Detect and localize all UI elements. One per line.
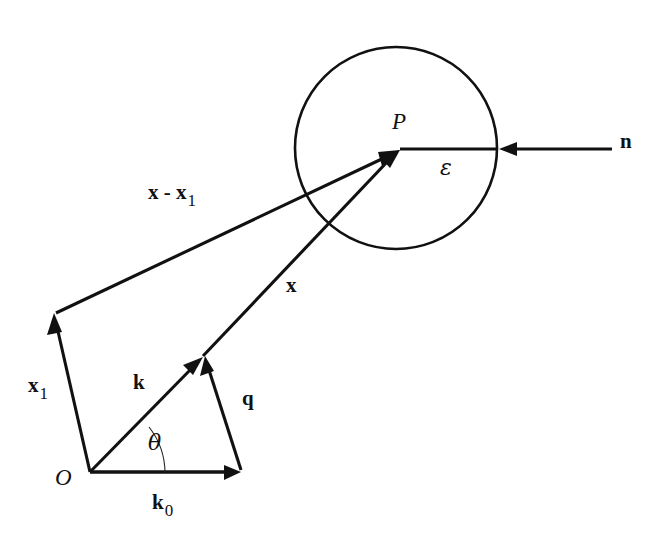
- label-x1-subscript: 1: [40, 384, 49, 403]
- vector-x-minus-x1: [56, 150, 400, 313]
- label-k-vector: k: [133, 372, 145, 393]
- label-x-minus-x1-subscript: 1: [188, 191, 197, 210]
- label-x1-main: x: [28, 373, 39, 397]
- label-normal-n: n: [620, 131, 632, 152]
- vector-x1: [47, 313, 90, 472]
- label-epsilon: ε: [440, 157, 452, 179]
- label-x-minus-x1: x - x1: [148, 182, 195, 203]
- label-x-minus-x1-main: x - x: [148, 180, 187, 204]
- label-x-vector: x: [286, 275, 297, 296]
- label-x1-vector: x1: [28, 375, 47, 396]
- label-k0-main: k: [152, 490, 164, 514]
- vector-n: [499, 142, 612, 156]
- label-q-vector: q: [242, 388, 254, 409]
- label-theta: θ: [148, 432, 161, 454]
- label-point-p: P: [392, 110, 406, 133]
- figure-canvas: P ε n x - x1 x x1 k q θ O k0: [0, 0, 663, 553]
- label-k0-subscript: 0: [165, 501, 174, 520]
- diagram-svg: [0, 0, 663, 553]
- vector-k: [90, 357, 203, 472]
- label-origin-o: O: [55, 466, 72, 489]
- vector-q: [200, 356, 241, 470]
- label-k0-vector: k0: [152, 492, 172, 513]
